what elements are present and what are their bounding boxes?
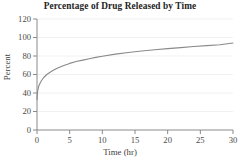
chart-figure: Percentage of Drug Released by Time 0204… <box>0 0 240 162</box>
y-tick-marks <box>33 19 37 130</box>
y-tick-label: 0 <box>9 125 31 135</box>
y-axis-label: Percent <box>2 37 12 97</box>
x-tick-label: 10 <box>92 135 112 145</box>
y-tick-label: 80 <box>9 51 31 61</box>
x-tick-label: 15 <box>125 135 145 145</box>
data-series-line <box>37 43 233 99</box>
y-tick-label: 20 <box>9 106 31 116</box>
x-tick-label: 30 <box>223 135 240 145</box>
x-tick-label: 5 <box>60 135 80 145</box>
y-tick-label: 100 <box>9 32 31 42</box>
x-tick-label: 25 <box>190 135 210 145</box>
y-tick-label: 40 <box>9 88 31 98</box>
gridlines <box>37 19 233 112</box>
x-axis-label: Time (hr) <box>0 147 240 157</box>
x-tick-label: 20 <box>158 135 178 145</box>
y-tick-label: 120 <box>9 14 31 24</box>
y-tick-label: 60 <box>9 69 31 79</box>
x-tick-label: 0 <box>27 135 47 145</box>
x-tick-marks <box>37 130 233 134</box>
